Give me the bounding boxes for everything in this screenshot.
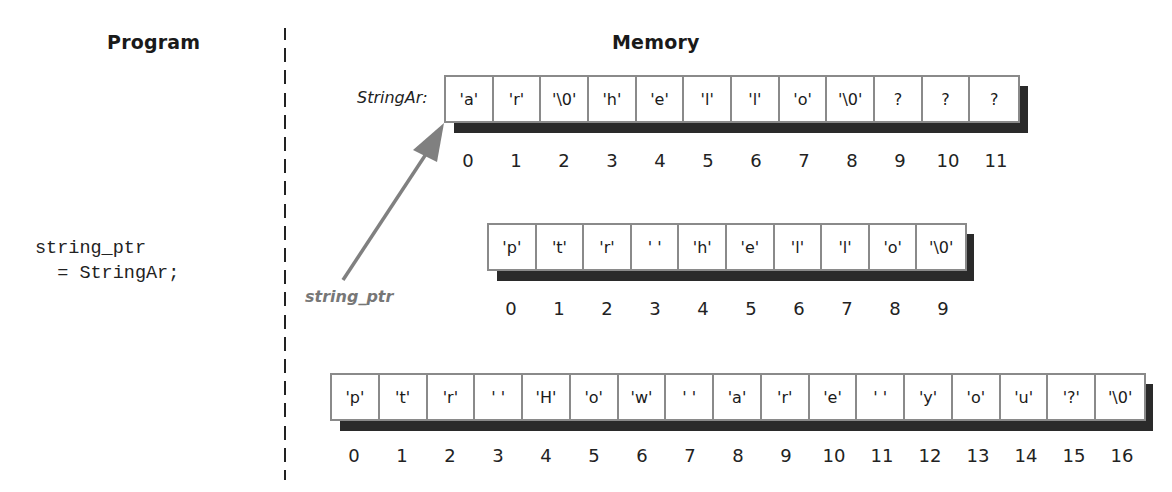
pointer-label: string_ptr bbox=[305, 287, 393, 306]
pointer-arrow-icon bbox=[0, 0, 1172, 492]
